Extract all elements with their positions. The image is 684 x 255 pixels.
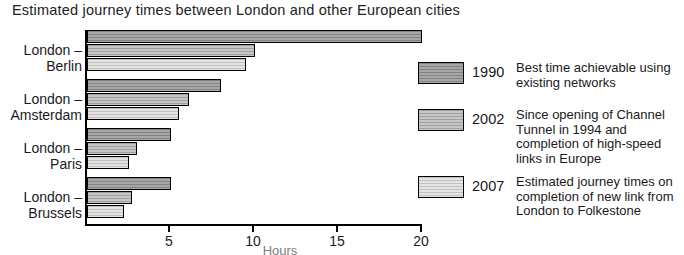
x-axis-ticklabel-5: 5 [165, 233, 173, 249]
chart-title: Estimated journey times between London a… [12, 2, 460, 18]
y-axis-label-berlin-line2: Berlin [0, 59, 82, 75]
y-axis-label-amsterdam-line1: London – [0, 92, 82, 108]
y-axis-label-paris-line1: London – [0, 141, 82, 157]
bar-berlin-2007[interactable] [87, 58, 246, 71]
x-axis-ticklabel-15: 15 [329, 233, 345, 249]
bar-amsterdam-2007[interactable] [87, 107, 179, 120]
legend-swatch-2007-icon [418, 176, 464, 198]
y-axis-labels: London – Berlin London – Amsterdam Londo… [0, 30, 82, 226]
y-axis-label-amsterdam-line2: Amsterdam [0, 108, 82, 124]
bar-paris-2007[interactable] [87, 156, 129, 169]
legend-year-2007: 2007 [472, 178, 504, 194]
legend-swatch-2002-icon [418, 109, 464, 131]
y-axis-label-brussels: London – Brussels [0, 190, 82, 221]
x-axis-title: Hours [263, 243, 298, 255]
y-axis-label-berlin-line1: London – [0, 43, 82, 59]
bar-paris-2002[interactable] [87, 142, 137, 155]
y-axis-label-paris: London – Paris [0, 141, 82, 172]
legend-year-1990: 1990 [472, 64, 504, 80]
x-axis-tick-20 [420, 224, 422, 232]
plot-area: 5 10 15 20 [85, 30, 420, 226]
y-axis-label-amsterdam: London – Amsterdam [0, 92, 82, 123]
bar-brussels-2007[interactable] [87, 205, 124, 218]
x-axis-tick-10 [252, 224, 254, 232]
y-axis-label-brussels-line1: London – [0, 190, 82, 206]
legend-year-2002: 2002 [472, 111, 504, 127]
y-axis-label-brussels-line2: Brussels [0, 206, 82, 222]
bar-berlin-2002[interactable] [87, 44, 255, 57]
legend-swatch-1990-icon [418, 62, 464, 84]
bar-brussels-1990[interactable] [87, 177, 171, 190]
x-axis-ticklabel-20: 20 [413, 233, 429, 249]
bar-brussels-2002[interactable] [87, 191, 132, 204]
x-axis-tick-5 [168, 224, 170, 232]
bar-amsterdam-2002[interactable] [87, 93, 189, 106]
bar-berlin-1990[interactable] [87, 30, 422, 43]
y-axis-label-berlin: London – Berlin [0, 43, 82, 74]
bar-amsterdam-1990[interactable] [87, 79, 221, 92]
legend-description-1990: Best time achievable using existing netw… [516, 61, 684, 90]
legend-description-2002: Since opening of Channel Tunnel in 1994 … [516, 108, 684, 166]
x-axis-ticklabel-10: 10 [245, 233, 261, 249]
legend-description-2007: Estimated journey times on completion of… [516, 175, 684, 219]
x-axis-tick-15 [336, 224, 338, 232]
bar-paris-1990[interactable] [87, 128, 171, 141]
y-axis-label-paris-line2: Paris [0, 157, 82, 173]
